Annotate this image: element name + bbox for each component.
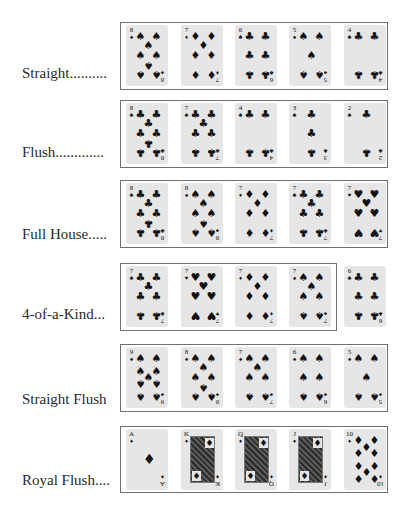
club-icon: ♣ (260, 69, 271, 80)
club-icon: ♣ (361, 109, 372, 120)
playing-card-6-of-clubs: 6♣6♣♣♣♣♣♣♣ (235, 25, 277, 86)
spade-icon: ♠ (353, 391, 364, 402)
card-rank: 10 (346, 430, 353, 438)
diamond-icon: ♦ (353, 473, 364, 484)
heart-icon: ♥ (369, 208, 380, 219)
club-icon: ♣ (135, 147, 146, 158)
playing-card-8-of-spades: 8♠8♠♠♠♠♠♠♠♠♠ (181, 183, 223, 244)
club-icon: ♣ (369, 31, 380, 42)
club-icon: ♣ (190, 147, 201, 158)
diamond-icon: ♦ (313, 438, 322, 448)
card-rank: J (324, 480, 327, 488)
spade-icon: ♠ (183, 192, 190, 198)
heart-icon: ♥ (353, 227, 364, 238)
diamond-icon: ♦ (246, 471, 255, 481)
diamond-icon: ♦ (183, 438, 190, 444)
diamond-icon: ♦ (237, 438, 244, 444)
hand-label-straight: Straight.......... (22, 66, 122, 81)
club-icon: ♣ (244, 50, 255, 61)
card-rank: 4 (348, 26, 352, 34)
club-icon: ♣ (183, 112, 190, 118)
spade-icon: ♠ (190, 227, 201, 238)
club-icon: ♣ (346, 112, 353, 118)
club-icon: ♣ (151, 310, 162, 321)
spade-icon: ♠ (298, 31, 309, 42)
diamond-icon: ♦ (206, 69, 217, 80)
card-rank: 5 (293, 26, 297, 34)
heart-icon: ♥ (183, 275, 190, 281)
club-icon: ♣ (353, 272, 364, 283)
card-index-tl: 8♠ (183, 185, 190, 198)
card-index-tl: A♦ (128, 431, 135, 444)
club-icon: ♣ (206, 147, 217, 158)
card-rank: 6 (348, 267, 352, 275)
card-index-tl: 6♣ (237, 27, 244, 40)
club-icon: ♣ (260, 50, 271, 61)
diamond-icon: ♦ (300, 471, 309, 481)
card-rank: 8 (185, 348, 189, 356)
card-rank: 7 (293, 184, 297, 192)
club-icon: ♣ (314, 208, 325, 219)
playing-card-7-of-diamonds: 7♦7♦♦♦♦♦♦♦♦ (235, 183, 277, 244)
card-index-tl: 4♣ (346, 27, 353, 40)
club-icon: ♣ (322, 148, 329, 154)
card-rank: 2 (348, 104, 352, 112)
card-rank: 7 (348, 184, 352, 192)
card-rank: 2 (379, 154, 383, 162)
club-icon: ♣ (260, 147, 271, 158)
club-icon: ♣ (346, 275, 353, 281)
card-index-br: Q♦ (268, 474, 275, 487)
diamond-icon: ♦ (369, 473, 380, 484)
club-icon: ♣ (306, 147, 317, 158)
diamond-icon: ♦ (369, 448, 380, 459)
card-rank: 7 (293, 267, 297, 275)
heart-icon: ♥ (206, 291, 217, 302)
card-rank: 8 (130, 104, 134, 112)
playing-card-8-of-spades: 8♠8♠♠♠♠♠♠♠♠♠ (126, 25, 168, 86)
diamond-icon: ♦ (143, 454, 154, 465)
playing-card-7-of-diamonds: 7♦7♦♦♦♦♦♦♦♦ (181, 25, 223, 86)
club-icon: ♣ (353, 31, 364, 42)
diamond-icon: ♦ (190, 50, 201, 61)
club-icon: ♣ (151, 227, 162, 238)
card-index-tl: 7♣ (291, 185, 298, 198)
club-icon: ♣ (291, 192, 298, 198)
spade-icon: ♠ (314, 310, 325, 321)
club-icon: ♣ (135, 227, 146, 238)
playing-card-8-of-spades: 8♠8♠♠♠♠♠♠♠♠♠ (181, 347, 223, 408)
card-rank: 7 (239, 267, 243, 275)
club-icon: ♣ (291, 112, 298, 118)
card-index-tl: 7♦ (183, 27, 190, 40)
club-icon: ♣ (361, 147, 372, 158)
diamond-icon: ♦ (244, 310, 255, 321)
diamond-icon: ♦ (244, 227, 255, 238)
card-index-tl: 7♥ (346, 185, 353, 198)
card-index-tl: 6♣ (346, 268, 353, 281)
club-icon: ♣ (369, 272, 380, 283)
club-icon: ♣ (260, 109, 271, 120)
card-index-tl: J♦ (291, 431, 298, 444)
card-index-tl: 8♣ (128, 105, 135, 118)
spade-icon: ♠ (135, 69, 146, 80)
spade-icon: ♠ (291, 275, 298, 281)
spade-icon: ♠ (151, 378, 162, 389)
playing-card-a-of-diamonds: A♦A♦♦ (126, 429, 168, 490)
hand-label-full-house: Full House..... (22, 227, 122, 242)
diamond-icon: ♦ (260, 310, 271, 321)
club-icon: ♣ (298, 227, 309, 238)
hand-label-flush: Flush............. (22, 145, 122, 160)
spade-icon: ♠ (298, 310, 309, 321)
card-index-tl: 7♠ (237, 349, 244, 362)
diamond-icon: ♦ (190, 69, 201, 80)
heart-icon: ♥ (206, 310, 217, 321)
card-rank: J (293, 430, 296, 438)
spade-icon: ♠ (314, 31, 325, 42)
club-icon: ♣ (298, 208, 309, 219)
club-icon: ♣ (353, 69, 364, 80)
spade-icon: ♠ (314, 69, 325, 80)
card-rank: 8 (130, 184, 134, 192)
club-icon: ♣ (237, 112, 244, 118)
spade-icon: ♠ (206, 227, 217, 238)
diamond-icon: ♦ (192, 471, 201, 481)
heart-icon: ♥ (190, 291, 201, 302)
